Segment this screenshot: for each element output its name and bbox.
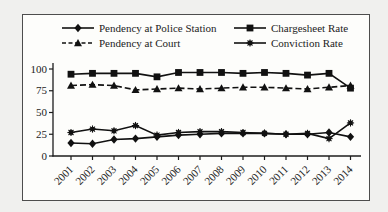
y-tick-label: 0 xyxy=(42,150,48,162)
square-marker-icon xyxy=(175,69,182,76)
chart-legend: Pendency at Police StationChargesheet Ra… xyxy=(61,20,348,50)
square-marker-icon xyxy=(111,70,118,77)
square-marker-icon xyxy=(240,70,247,77)
asterisk-marker-icon xyxy=(304,130,311,137)
legend-item: Pendency at Court xyxy=(61,37,233,49)
diamond-marker-icon xyxy=(67,139,74,147)
diamond-marker-icon xyxy=(132,134,139,142)
asterisk-marker-icon xyxy=(132,122,139,129)
asterisk-marker-icon xyxy=(89,125,96,132)
x-tick-label: 2001 xyxy=(51,163,75,187)
legend-label: Conviction Rate xyxy=(271,37,343,49)
diamond-marker-icon xyxy=(89,140,96,148)
square-marker-icon xyxy=(326,70,333,77)
square-marker-icon xyxy=(197,69,204,76)
y-tick-label: 50 xyxy=(36,106,48,118)
asterisk-marker-icon xyxy=(239,129,246,136)
asterisk-marker-icon xyxy=(261,130,268,137)
square-marker-icon xyxy=(283,70,290,77)
x-tick-label: 2006 xyxy=(159,163,183,187)
asterisk-marker-icon xyxy=(67,129,74,136)
square-marker-icon xyxy=(89,70,96,77)
asterisk-marker-icon xyxy=(282,131,289,138)
diamond-marker-icon xyxy=(110,135,117,143)
square-marker-icon xyxy=(261,69,268,76)
square-marker-icon xyxy=(218,69,225,76)
legend-label: Pendency at Police Station xyxy=(99,22,217,34)
legend-item: Chargesheet Rate xyxy=(233,22,348,34)
line-chart-plot: 0255075100200120022003200420052006200720… xyxy=(23,53,369,200)
y-tick-label: 100 xyxy=(31,63,48,75)
legend-label: Pendency at Court xyxy=(99,37,180,49)
diamond-marker-icon xyxy=(347,133,354,141)
chart-figure: Pendency at Police StationChargesheet Ra… xyxy=(22,14,370,201)
x-tick-label: 2011 xyxy=(267,163,291,187)
y-tick-label: 25 xyxy=(36,128,48,140)
x-tick-label: 2008 xyxy=(202,163,226,187)
y-axis-ticks: 0255075100 xyxy=(31,63,54,162)
x-tick-label: 2004 xyxy=(116,163,140,187)
x-tick-label: 2005 xyxy=(137,163,161,187)
square-marker-icon xyxy=(347,85,354,92)
legend-asterisk-sample-icon xyxy=(233,37,267,49)
square-marker-icon xyxy=(132,70,139,77)
x-tick-label: 2003 xyxy=(94,163,118,187)
legend-item: Conviction Rate xyxy=(233,37,348,49)
series-triangle xyxy=(67,81,355,93)
square-marker-icon xyxy=(247,24,254,31)
x-tick-label: 2012 xyxy=(288,163,312,187)
legend-square-sample-icon xyxy=(233,22,267,34)
x-axis-ticks: 2001200220032004200520062007200820092010… xyxy=(51,156,355,187)
series-asterisk xyxy=(67,119,354,142)
square-marker-icon xyxy=(154,73,161,80)
asterisk-marker-icon xyxy=(246,39,253,46)
asterisk-marker-icon xyxy=(110,127,117,134)
page-background: Pendency at Police StationChargesheet Ra… xyxy=(0,0,388,212)
x-tick-label: 2014 xyxy=(331,163,355,187)
legend-triangle-sample-icon xyxy=(61,37,95,49)
x-tick-label: 2002 xyxy=(73,163,97,187)
x-tick-label: 2009 xyxy=(223,163,247,187)
legend-label: Chargesheet Rate xyxy=(271,22,348,34)
legend-diamond-sample-icon xyxy=(61,22,95,34)
x-tick-label: 2013 xyxy=(309,163,333,187)
legend-item: Pendency at Police Station xyxy=(61,22,233,34)
square-marker-icon xyxy=(304,72,311,79)
x-tick-label: 2007 xyxy=(180,163,204,187)
square-marker-icon xyxy=(68,71,75,78)
diamond-marker-icon xyxy=(74,23,81,31)
x-tick-label: 2010 xyxy=(245,163,269,187)
y-tick-label: 75 xyxy=(36,84,48,96)
